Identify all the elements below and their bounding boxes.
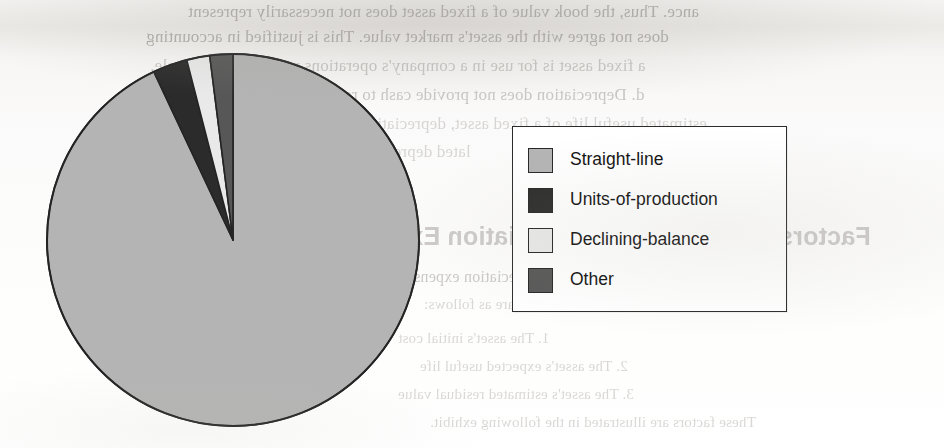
legend-item-units-of-production: Units-of-production — [528, 180, 778, 220]
legend-item-other: Other — [528, 260, 778, 300]
legend-item-list: Straight-lineUnits-of-productionDeclinin… — [528, 140, 778, 300]
legend-swatch-icon — [528, 228, 553, 253]
legend-swatch-icon — [528, 148, 553, 173]
pie-chart — [0, 0, 944, 448]
legend-item-declining-balance: Declining-balance — [528, 220, 778, 260]
chart-legend: Straight-lineUnits-of-productionDeclinin… — [512, 126, 787, 312]
legend-item-label: Declining-balance — [570, 231, 709, 249]
legend-item-label: Other — [570, 271, 614, 289]
pie-chart-svg — [0, 0, 944, 448]
scanned-page-background: ance. Thus, the book value of a fixed as… — [0, 0, 944, 448]
legend-item-label: Units-of-production — [570, 191, 718, 209]
pie-slice-group — [47, 54, 419, 426]
legend-item-label: Straight-line — [570, 151, 663, 169]
legend-item-straight-line: Straight-line — [528, 140, 778, 180]
legend-swatch-icon — [528, 188, 553, 213]
legend-swatch-icon — [528, 268, 553, 293]
